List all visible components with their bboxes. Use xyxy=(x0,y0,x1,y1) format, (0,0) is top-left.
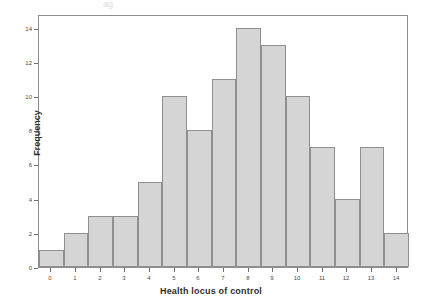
scan-artifact: ag xyxy=(103,0,119,9)
x-tick-mark xyxy=(297,268,298,272)
x-tick-label: 11 xyxy=(314,275,330,281)
histogram-bar xyxy=(212,79,237,267)
x-tick-mark xyxy=(322,268,323,272)
x-tick-mark xyxy=(223,268,224,272)
x-tick-label: 1 xyxy=(67,275,83,281)
histogram-bar xyxy=(138,182,163,267)
x-tick-mark xyxy=(124,268,125,272)
x-tick-label: 14 xyxy=(388,275,404,281)
y-tick-label: 4 xyxy=(18,197,32,203)
x-tick-label: 3 xyxy=(116,275,132,281)
y-tick-label: 6 xyxy=(18,162,32,168)
histogram-bar xyxy=(113,216,138,267)
x-tick-label: 8 xyxy=(240,275,256,281)
x-tick-label: 4 xyxy=(141,275,157,281)
x-tick-label: 10 xyxy=(289,275,305,281)
y-tick-label: 10 xyxy=(18,94,32,100)
plot-area xyxy=(38,15,408,268)
x-tick-mark xyxy=(346,268,347,272)
x-tick-mark xyxy=(396,268,397,272)
y-tick-label: 0 xyxy=(18,265,32,271)
x-tick-mark xyxy=(75,268,76,272)
histogram-bar xyxy=(261,45,286,267)
x-tick-label: 13 xyxy=(363,275,379,281)
x-tick-label: 7 xyxy=(215,275,231,281)
histogram-bar xyxy=(236,28,261,267)
bars-layer xyxy=(39,16,407,267)
histogram-bar xyxy=(39,250,64,267)
x-tick-label: 12 xyxy=(338,275,354,281)
x-tick-mark xyxy=(198,268,199,272)
histogram-bar xyxy=(187,130,212,267)
histogram-bar xyxy=(64,233,89,267)
y-tick-label: 8 xyxy=(18,128,32,134)
y-tick-label: 14 xyxy=(18,26,32,32)
x-tick-mark xyxy=(174,268,175,272)
x-tick-mark xyxy=(248,268,249,272)
y-axis-title: Frequency xyxy=(32,73,42,193)
x-tick-label: 5 xyxy=(166,275,182,281)
x-tick-mark xyxy=(149,268,150,272)
histogram-bar xyxy=(360,147,385,267)
histogram-bar xyxy=(286,96,311,267)
y-tick-mark xyxy=(34,29,38,30)
x-tick-label: 2 xyxy=(92,275,108,281)
x-axis-title: Health locus of control xyxy=(0,286,422,296)
histogram-bar xyxy=(88,216,113,267)
x-tick-label: 6 xyxy=(190,275,206,281)
x-tick-mark xyxy=(50,268,51,272)
x-tick-mark xyxy=(272,268,273,272)
histogram-figure: ag 02468101214 01234567891011121314 Heal… xyxy=(0,0,422,307)
x-tick-mark xyxy=(100,268,101,272)
histogram-bar xyxy=(335,199,360,267)
x-tick-mark xyxy=(371,268,372,272)
y-tick-mark xyxy=(34,234,38,235)
y-tick-mark xyxy=(34,268,38,269)
y-tick-mark xyxy=(34,200,38,201)
y-tick-label: 12 xyxy=(18,60,32,66)
y-tick-mark xyxy=(34,63,38,64)
x-tick-label: 0 xyxy=(42,275,58,281)
x-tick-label: 9 xyxy=(264,275,280,281)
y-tick-label: 2 xyxy=(18,231,32,237)
histogram-bar xyxy=(310,147,335,267)
histogram-bar xyxy=(162,96,187,267)
histogram-bar xyxy=(384,233,409,267)
